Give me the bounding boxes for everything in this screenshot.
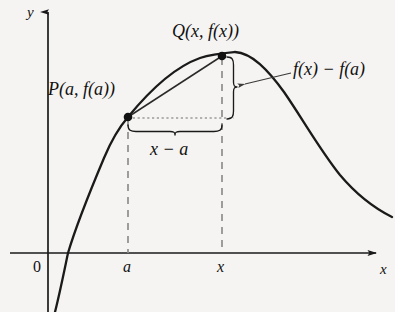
x-axis-label: x [380, 262, 387, 277]
rise-brace [227, 57, 237, 119]
secant-line-figure: y x 0 a x P(a, f(a)) Q(x, f(x)) x − a f(… [0, 0, 395, 312]
origin-label: 0 [33, 259, 41, 275]
x-tick-label-x: x [217, 259, 224, 275]
point-p-label: P(a, f(a)) [48, 80, 115, 98]
run-label: x − a [150, 140, 188, 158]
run-brace [128, 125, 222, 135]
secant-line [128, 56, 222, 117]
rise-leader-arrow [245, 73, 291, 84]
figure-canvas [0, 0, 395, 312]
point-q-marker [218, 52, 227, 61]
point-p-marker [124, 113, 133, 122]
point-q-label: Q(x, f(x)) [172, 22, 239, 40]
rise-label: f(x) − f(a) [293, 60, 365, 78]
y-axis-label: y [27, 5, 34, 20]
x-tick-label-a: a [123, 259, 131, 275]
